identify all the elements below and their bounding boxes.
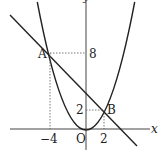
- origin-label: O: [76, 133, 86, 145]
- graph-svg: [0, 0, 165, 153]
- y-tick-8: 8: [89, 48, 97, 60]
- point-a-label: A: [38, 48, 47, 60]
- line-curve: [10, 15, 137, 146]
- point-b-label: B: [107, 104, 116, 116]
- y-axis-label: y: [83, 0, 89, 3]
- graph-figure: y x A 8 2 B −4 O 2: [0, 0, 165, 153]
- y-tick-2: 2: [76, 104, 84, 116]
- x-tick-neg4: −4: [40, 133, 58, 145]
- x-tick-2: 2: [100, 133, 108, 145]
- x-axis-label: x: [151, 123, 158, 135]
